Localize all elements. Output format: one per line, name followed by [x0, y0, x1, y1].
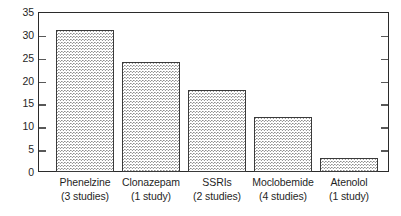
y-tick-label: 5 — [8, 144, 34, 155]
bar-clonazepam — [122, 62, 180, 172]
y-tick-label: 20 — [8, 76, 34, 87]
bar-slot — [320, 12, 378, 172]
y-tick-label: 0 — [8, 167, 34, 178]
bar-chart: 35 30 25 20 15 10 5 0 — [0, 0, 401, 216]
bar-slot — [122, 12, 180, 172]
y-tick-label: 30 — [8, 30, 34, 41]
bar-slot — [56, 12, 114, 172]
bar-atenolol — [320, 158, 378, 172]
x-label-note: (1 study) — [307, 190, 391, 204]
y-tick-label: 15 — [8, 98, 34, 109]
y-tick-label: 10 — [8, 121, 34, 132]
x-label-atenolol: Atenolol (1 study) — [307, 176, 391, 203]
bar-phenelzine — [56, 30, 114, 172]
bar-slot — [254, 12, 312, 172]
y-tick-label: 35 — [8, 7, 34, 18]
bars-layer — [38, 12, 389, 172]
bar-ssris — [188, 90, 246, 172]
x-axis-labels: Phenelzine (3 studies) Clonazepam (1 stu… — [38, 176, 389, 216]
x-label-category: Atenolol — [307, 176, 391, 190]
bar-slot — [188, 12, 246, 172]
bar-moclobemide — [254, 117, 312, 172]
y-tick-label: 25 — [8, 53, 34, 64]
